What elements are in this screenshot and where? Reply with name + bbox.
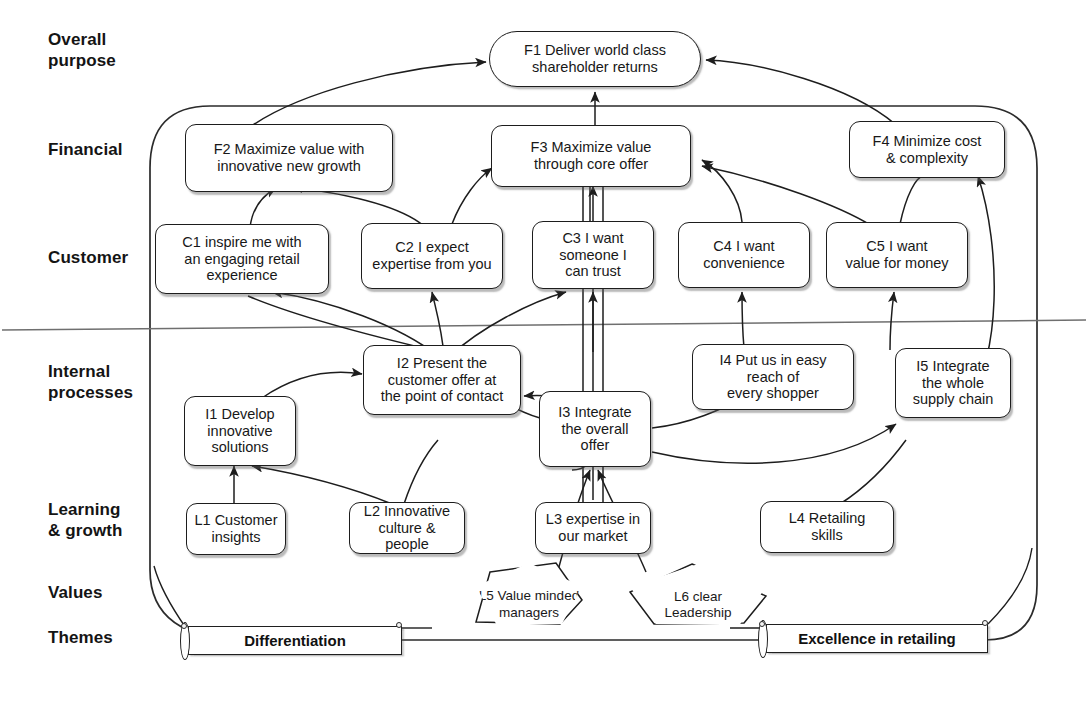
theme-left-nub [181,623,187,629]
node-F4[interactable]: F4 Minimize cost & complexity [849,121,1005,178]
node-L6-label: L6 clear Leadership [665,577,732,621]
node-I5[interactable]: I5 Integrate the whole supply chain [895,348,1011,418]
theme-right-nub [759,621,765,627]
edge-C1-F2 [250,188,276,228]
row-label-overall-purpose: Overall purpose [48,30,116,71]
node-C3[interactable]: C3 I want someone I can trust [532,221,654,289]
theme-right-nub-end [982,620,988,626]
edge-I1-I2 [262,372,362,398]
node-I4[interactable]: I4 Put us in easy reach of every shopper [692,344,854,410]
edge-C2-F3 [452,168,492,224]
edge-L4-I5 [840,440,906,504]
node-C5[interactable]: C5 I want value for money [826,222,968,288]
edge-L2-I2 [404,440,438,504]
edge-C4-F3 [702,160,742,222]
node-C2[interactable]: C2 I expect expertise from you [361,223,503,289]
node-I1[interactable]: I1 Develop innovative solutions [184,396,296,466]
row-label-internal-processes: Internal processes [48,362,133,403]
edge-C2-F2 [292,187,424,226]
row-label-customer: Customer [48,248,128,269]
edge-C5-F3 [702,166,872,226]
node-L3[interactable]: L3 expertise in our market [535,502,651,554]
node-F1[interactable]: F1 Deliver world class shareholder retur… [489,31,701,87]
edge-L2-I1 [252,466,392,504]
node-I2[interactable]: I2 Present the customer offer at the poi… [363,345,521,415]
node-L1[interactable]: L1 Customer insights [186,503,286,555]
node-F3[interactable]: F3 Maximize value through core offer [491,125,691,187]
node-C1[interactable]: C1 inspire me with an engaging retail ex… [155,224,329,294]
theme-right-leader [988,548,1032,624]
edge-F2-F1 [250,62,486,127]
edge-I5-C5 [890,292,894,350]
node-F2[interactable]: F2 Maximize value with innovative new gr… [185,124,393,192]
strategy-map-canvas: Overall purpose Financial Customer Inter… [0,0,1088,702]
edge-I4-C4 [742,292,744,348]
edge-L2-C1-tail [248,296,440,352]
node-C4[interactable]: C4 I want convenience [678,222,810,288]
theme-left-nub-end [396,622,402,628]
row-label-learning-growth: Learning & growth [48,500,122,541]
edge-F4-F1 [706,60,895,124]
theme-bar-differentiation[interactable]: Differentiation [188,626,402,655]
theme-bar-excellence[interactable]: Excellence in retailing [766,624,988,653]
node-L5-label: L5 Value minded managers [479,576,579,620]
perspective-divider [2,320,1086,330]
row-label-financial: Financial [48,140,123,161]
edge-C5-F4 [900,176,924,224]
row-label-themes: Themes [48,628,113,649]
node-L2[interactable]: L2 Innovative culture & people [349,502,465,554]
edge-I3-I5 [652,424,896,463]
row-label-values: Values [48,583,102,604]
node-L4[interactable]: L4 Retailing skills [760,501,894,553]
node-I3[interactable]: I3 Integrate the overall offer [539,391,651,467]
